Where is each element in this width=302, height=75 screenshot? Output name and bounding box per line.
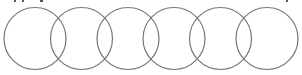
circle-6 <box>236 8 298 70</box>
circle-3 <box>97 8 159 70</box>
circles-diagram <box>0 0 302 75</box>
circle-5 <box>190 8 252 70</box>
circle-2 <box>51 8 113 70</box>
circle-4 <box>143 8 205 70</box>
circle-1 <box>4 8 66 70</box>
